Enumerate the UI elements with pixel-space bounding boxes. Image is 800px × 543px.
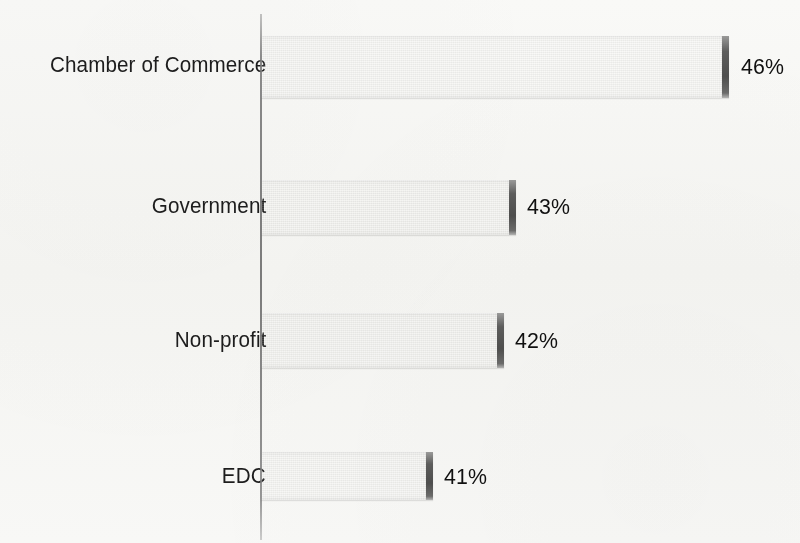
bar-government[interactable] xyxy=(261,180,516,235)
value-label-government: 43% xyxy=(527,194,570,220)
category-label-government: Government xyxy=(151,194,266,219)
category-label-non-profit: Non-profit xyxy=(174,328,266,353)
bar-chart: Chamber of Commerce 46% Government 43% N… xyxy=(0,0,800,543)
value-label-edc: 41% xyxy=(444,464,487,490)
bar-non-profit[interactable] xyxy=(261,313,504,368)
bar-edc[interactable] xyxy=(261,452,433,500)
value-label-non-profit: 42% xyxy=(515,328,558,354)
category-axis-line xyxy=(260,14,262,540)
bar-row: EDC 41% xyxy=(0,0,800,140)
